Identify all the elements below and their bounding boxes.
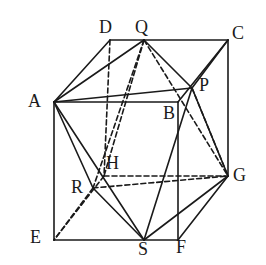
- vertex-label-h: H: [106, 154, 119, 172]
- vertex-label-r: R: [71, 178, 83, 196]
- vertex-label-c: C: [232, 24, 244, 42]
- visible-edges-group: [54, 40, 228, 240]
- vertex-label-s: S: [138, 240, 148, 258]
- edge-A-Q: [54, 40, 144, 102]
- vertex-label-e: E: [30, 228, 41, 246]
- vertex-label-g: G: [233, 166, 246, 184]
- diagram-canvas: [0, 0, 266, 265]
- edge-R-S: [93, 188, 144, 240]
- vertex-label-f: F: [176, 238, 186, 256]
- vertex-label-p: P: [199, 76, 209, 94]
- edge-A-R: [54, 102, 93, 188]
- vertex-label-d: D: [99, 18, 112, 36]
- edge-A-S: [54, 102, 144, 240]
- edge-Q-P: [144, 40, 192, 88]
- edge-C-P: [192, 40, 228, 88]
- geometry-diagram: DQCAPBHRGESF: [0, 0, 266, 265]
- edge-A-D: [54, 40, 110, 102]
- edge-P-G: [192, 88, 228, 176]
- vertex-label-b: B: [163, 104, 175, 122]
- vertex-label-a: A: [28, 92, 41, 110]
- vertex-label-q: Q: [135, 18, 148, 36]
